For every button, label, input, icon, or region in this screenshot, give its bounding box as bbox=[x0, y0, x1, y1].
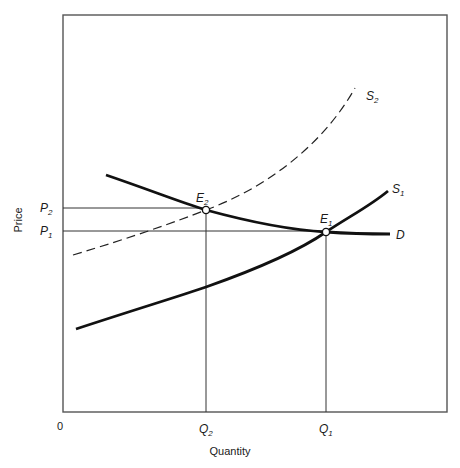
supply-curve-s1 bbox=[76, 191, 388, 329]
origin-label: 0 bbox=[57, 420, 63, 432]
s2-label: S2 bbox=[366, 89, 379, 105]
s1-label: S1 bbox=[392, 182, 404, 198]
p2-tick-label: P2 bbox=[40, 201, 53, 217]
plot-frame bbox=[63, 15, 447, 412]
d-label: D bbox=[396, 228, 405, 242]
supply-demand-diagram: S2 S1 D E2 E1 P2 P1 Q2 Q1 0 Quantity Pri… bbox=[0, 0, 460, 468]
p1-tick-label: P1 bbox=[40, 224, 52, 240]
equilibrium-point-e1 bbox=[322, 228, 329, 235]
x-axis-label: Quantity bbox=[210, 445, 251, 457]
e1-label: E1 bbox=[320, 212, 332, 228]
e2-label: E2 bbox=[196, 191, 209, 207]
q2-tick-label: Q2 bbox=[199, 422, 213, 438]
demand-curve-d bbox=[106, 175, 390, 234]
q1-tick-label: Q1 bbox=[319, 422, 333, 438]
y-axis-label: Price bbox=[12, 207, 24, 232]
equilibrium-point-e2 bbox=[202, 206, 209, 213]
